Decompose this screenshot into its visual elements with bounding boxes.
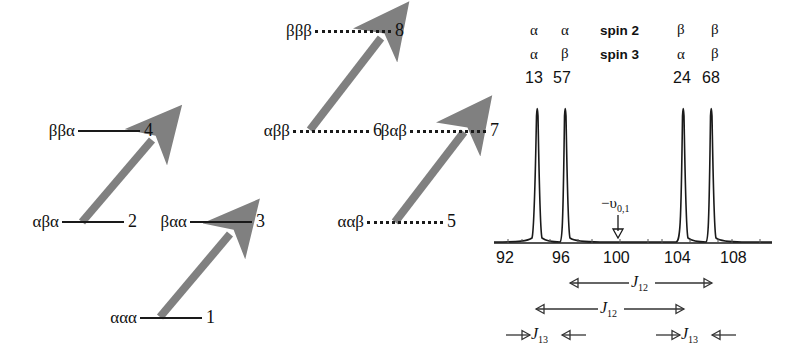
spectrum-trace	[490, 96, 789, 246]
level-line	[410, 130, 486, 133]
center-frequency-marker: −υ0,1	[601, 196, 629, 214]
level-line	[315, 30, 391, 33]
level-state-label: ααα	[110, 309, 140, 326]
spin2-right-beta-2: β	[711, 22, 719, 37]
coupling-arrow-j13-right	[490, 324, 789, 346]
axis-tick-104: 104	[664, 250, 691, 266]
level-state-label: βαβ	[381, 122, 410, 139]
level-number: 4	[140, 121, 153, 139]
level-number: 8	[391, 21, 404, 39]
peak-label-57: 57	[553, 70, 571, 86]
coupling-label-j13-right: J13	[681, 326, 698, 345]
level-number: 2	[124, 212, 137, 230]
level-line	[78, 130, 140, 132]
center-frequency-text: −υ	[601, 195, 617, 211]
level-line	[190, 221, 252, 223]
axis-tick-100: 100	[603, 250, 630, 266]
spin2-row-label: spin 2	[600, 24, 639, 38]
level-line	[140, 317, 202, 319]
spin2-left-alpha-2: α	[561, 23, 569, 38]
coupling-label-j12-lower: J12	[600, 300, 617, 319]
spin3-left-alpha: α	[530, 47, 538, 62]
center-frequency-arrow-icon	[611, 215, 625, 239]
energy-level-panel-left: ββα 4 αβα 2 βαα 3 ααα 1	[0, 0, 260, 356]
energy-level-panel-right: βββ 8 αββ 6 βαβ 7 ααβ 5	[255, 0, 490, 356]
level-state-label: αββ	[264, 122, 293, 139]
coupling-arrow-j12-lower	[490, 298, 789, 320]
spin3-row-label: spin 3	[600, 48, 639, 62]
spin2-right-beta-1: β	[677, 22, 685, 37]
coupling-label-j12-upper: J12	[631, 274, 648, 293]
peak-label-13: 13	[525, 70, 543, 86]
spin2-left-alpha-1: α	[530, 23, 538, 38]
center-frequency-sub: 0,1	[617, 203, 630, 214]
level-state-label: αβα	[33, 213, 62, 230]
level-state-label: ααβ	[338, 213, 367, 230]
level-number: 5	[443, 212, 456, 230]
axis-tick-96: 96	[552, 250, 570, 266]
level-state-label: βββ	[286, 22, 315, 39]
coupling-j-sub: 12	[607, 308, 617, 319]
level-number: 1	[202, 308, 215, 326]
transition-arrow-1-to-3	[0, 0, 260, 356]
level-line	[62, 221, 124, 223]
level-line	[293, 130, 369, 133]
peak-label-68: 68	[702, 70, 720, 86]
coupling-j-sub: 12	[638, 282, 648, 293]
axis-tick-108: 108	[720, 250, 747, 266]
level-state-label: βαα	[161, 213, 190, 230]
spin3-left-beta: β	[561, 46, 569, 61]
axis-tick-92: 92	[496, 250, 514, 266]
coupling-j-sub: 13	[688, 334, 698, 345]
peak-label-24: 24	[673, 70, 691, 86]
level-line	[367, 221, 443, 224]
spin3-right-alpha: α	[677, 47, 685, 62]
spin3-right-beta: β	[711, 46, 719, 61]
spectrum-panel: α α spin 2 β β α β spin 3 α β 13 57 24 6…	[490, 0, 789, 356]
level-state-label: ββα	[49, 122, 78, 139]
transition-arrow-5-to-7	[255, 0, 490, 356]
